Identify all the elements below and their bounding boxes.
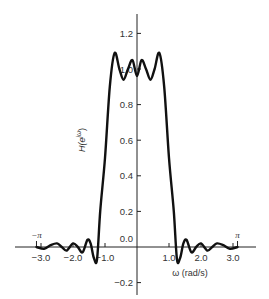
x-tick-label: −3.0 [32,252,51,263]
pi-label: −π [31,230,42,240]
x-tick-label: 1.0 [162,252,175,263]
frequency-response-chart: 1.21.00.80.60.40.20.0−0.2−3.0−2.0−1.01.0… [0,0,269,299]
pi-label: π [235,230,240,240]
y-tick-label: 1.2 [120,28,133,39]
y-axis-label: H(ejω) [75,128,87,152]
x-tick-label: 3.0 [226,252,239,263]
x-axis-label: ω (rad/s) [172,268,208,278]
y-tick-label: 0.2 [120,206,133,217]
x-tick-label: 2.0 [194,252,207,263]
y-tick-label: −0.2 [114,277,133,288]
x-tick-label: −2.0 [64,252,83,263]
y-tick-label: 0.4 [120,170,133,181]
axes [15,14,256,295]
y-tick-label: 0.8 [120,99,133,110]
y-tick-label: 0.0 [120,233,133,244]
y-tick-label: 0.6 [120,135,133,146]
